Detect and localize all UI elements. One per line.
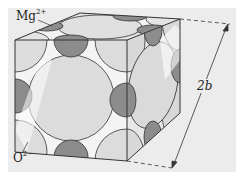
dimension-label: 2b: [196, 79, 213, 93]
anion-label: O2−: [13, 151, 33, 165]
cation-label: Mg2+: [16, 9, 46, 23]
